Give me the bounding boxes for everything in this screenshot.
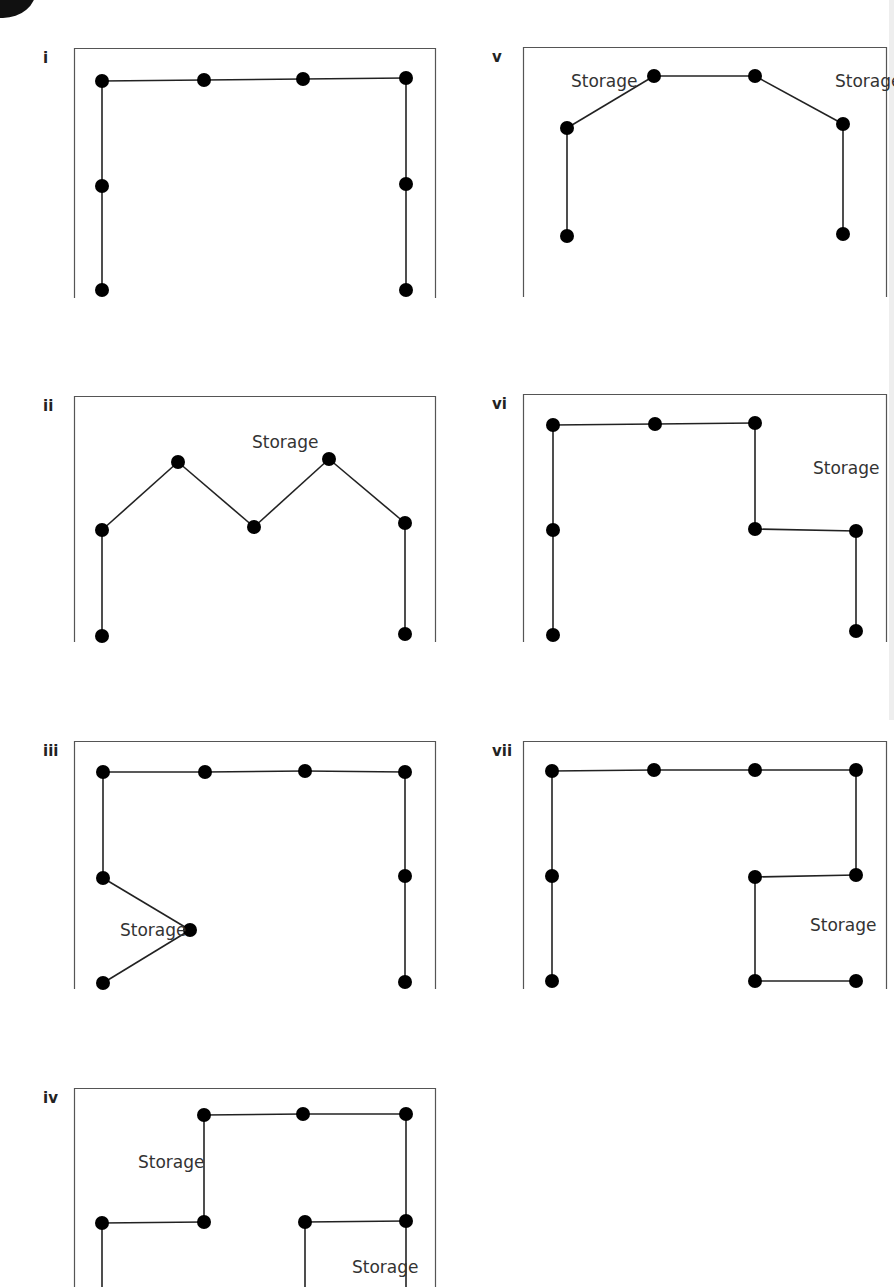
wall-segment	[102, 462, 178, 530]
support-point-icon	[399, 283, 413, 297]
support-point-icon	[296, 1107, 310, 1121]
support-point-icon	[748, 974, 762, 988]
support-point-icon	[399, 1107, 413, 1121]
floor-plan-panel-iv: StorageStorage	[74, 1088, 436, 1287]
storage-label: Storage	[138, 1152, 205, 1172]
support-point-icon	[849, 624, 863, 638]
support-point-icon	[748, 763, 762, 777]
wall-segment	[178, 462, 254, 527]
floor-plan-svg: StorageStorage	[74, 1088, 436, 1287]
support-point-icon	[95, 629, 109, 643]
support-point-icon	[95, 283, 109, 297]
support-point-icon	[546, 628, 560, 642]
page-edge-shadow	[889, 0, 894, 720]
floor-plan-panel-v: StorageStorage	[523, 47, 887, 297]
floor-plan-svg: Storage	[74, 396, 436, 642]
wall-segment	[102, 1222, 204, 1223]
support-point-icon	[849, 974, 863, 988]
wall-segment	[305, 1221, 406, 1222]
support-point-icon	[560, 121, 574, 135]
support-point-icon	[560, 229, 574, 243]
storage-label: Storage	[571, 71, 638, 91]
support-point-icon	[198, 765, 212, 779]
support-point-icon	[95, 523, 109, 537]
support-point-icon	[399, 1214, 413, 1228]
support-point-icon	[322, 452, 336, 466]
wall-segment	[755, 529, 856, 531]
panel-label-vi: vi	[492, 395, 507, 413]
support-point-icon	[398, 516, 412, 530]
support-point-icon	[748, 870, 762, 884]
support-point-icon	[398, 765, 412, 779]
support-point-icon	[546, 523, 560, 537]
support-point-icon	[647, 763, 661, 777]
panel-label-ii: ii	[43, 397, 53, 415]
support-point-icon	[398, 869, 412, 883]
wall-segment	[205, 771, 305, 772]
support-point-icon	[298, 764, 312, 778]
wall-segment	[552, 770, 654, 771]
room-outline	[524, 395, 887, 643]
storage-label: Storage	[120, 920, 187, 940]
wall-segment	[102, 80, 204, 81]
panel-label-iv: iv	[43, 1089, 58, 1107]
support-point-icon	[748, 416, 762, 430]
wall-segment	[305, 771, 405, 772]
storage-label: Storage	[835, 71, 894, 91]
support-point-icon	[95, 74, 109, 88]
support-point-icon	[545, 764, 559, 778]
support-point-icon	[197, 73, 211, 87]
support-point-icon	[96, 871, 110, 885]
wall-segment	[204, 79, 303, 80]
support-point-icon	[398, 975, 412, 989]
support-point-icon	[95, 179, 109, 193]
support-point-icon	[849, 868, 863, 882]
support-point-icon	[849, 763, 863, 777]
floor-plan-panel-vi: Storage	[523, 394, 887, 642]
support-point-icon	[647, 69, 661, 83]
support-point-icon	[399, 71, 413, 85]
support-point-icon	[298, 1215, 312, 1229]
support-point-icon	[197, 1215, 211, 1229]
support-point-icon	[545, 869, 559, 883]
floor-plan-panel-i	[74, 48, 436, 298]
wall-segment	[204, 1114, 303, 1115]
panel-label-i: i	[43, 49, 48, 67]
support-point-icon	[296, 72, 310, 86]
panel-label-iii: iii	[43, 742, 58, 760]
floor-plan-svg: StorageStorage	[523, 47, 887, 297]
support-point-icon	[748, 522, 762, 536]
storage-label: Storage	[810, 915, 877, 935]
panel-label-v: v	[492, 48, 502, 66]
storage-label: Storage	[252, 432, 319, 452]
support-point-icon	[748, 69, 762, 83]
support-point-icon	[96, 765, 110, 779]
room-outline	[524, 742, 887, 990]
panel-label-vii: vii	[492, 742, 512, 760]
support-point-icon	[96, 976, 110, 990]
support-point-icon	[95, 1216, 109, 1230]
support-point-icon	[836, 117, 850, 131]
room-outline	[75, 742, 436, 990]
corner-blob-decoration	[0, 0, 36, 18]
support-point-icon	[399, 177, 413, 191]
floor-plan-panel-iii: Storage	[74, 741, 436, 989]
wall-segment	[254, 459, 329, 527]
floor-plan-svg	[74, 48, 436, 298]
support-point-icon	[836, 227, 850, 241]
storage-label: Storage	[352, 1257, 419, 1277]
support-point-icon	[171, 455, 185, 469]
support-point-icon	[849, 524, 863, 538]
floor-plan-svg: Storage	[523, 394, 887, 642]
support-point-icon	[545, 974, 559, 988]
wall-segment	[303, 78, 406, 79]
wall-segment	[755, 875, 856, 877]
room-outline	[75, 49, 436, 299]
support-point-icon	[648, 417, 662, 431]
storage-label: Storage	[813, 458, 880, 478]
wall-segment	[755, 76, 843, 124]
floor-plan-svg: Storage	[523, 741, 887, 989]
support-point-icon	[398, 627, 412, 641]
wall-segment	[329, 459, 405, 523]
wall-segment	[553, 424, 655, 425]
